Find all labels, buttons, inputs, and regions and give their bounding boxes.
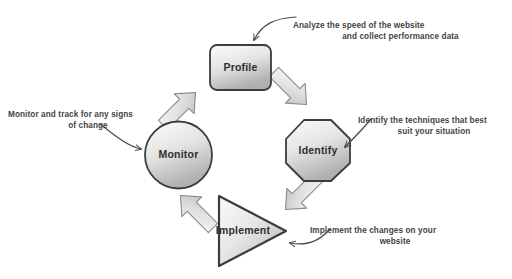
callout-monitor-line1: Monitor and track for any signs	[8, 110, 133, 119]
leader-line-analyze-icon	[254, 17, 296, 40]
node-implement[interactable]: Implement	[216, 196, 286, 266]
callout-monitor-line2: of change	[8, 120, 168, 132]
node-monitor-label: Monitor	[159, 148, 199, 160]
node-identify-label: Identify	[299, 144, 338, 156]
callout-identify-line2: suit your situation	[358, 126, 510, 138]
node-identify[interactable]: Identify	[286, 120, 350, 181]
callout-identify: Identify the techniques that best suit y…	[358, 103, 510, 149]
node-profile[interactable]: Profile	[210, 45, 271, 90]
callout-monitor: Monitor and track for any signs of chang…	[8, 97, 168, 143]
callout-implement-line2: website	[310, 236, 480, 248]
callout-implement-line1: Implement the changes on your	[310, 226, 436, 235]
callout-analyze: Analyze the speed of the website and col…	[293, 8, 508, 54]
callout-identify-line1: Identify the techniques that best	[358, 116, 487, 125]
callout-analyze-line2: and collect performance data	[293, 31, 508, 43]
cycle-diagram: Profile Identify Implement Monitor Analy…	[0, 0, 512, 279]
callout-implement: Implement the changes on your website	[310, 213, 480, 259]
node-profile-label: Profile	[223, 61, 257, 73]
flow-arrow-profile-to-identify	[264, 62, 316, 114]
node-implement-label: Implement	[216, 224, 271, 236]
callout-analyze-line1: Analyze the speed of the website	[293, 21, 425, 30]
